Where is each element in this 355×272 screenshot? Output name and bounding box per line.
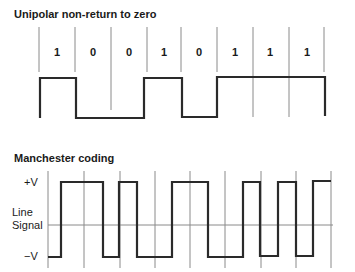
waveform-canvas: [0, 0, 355, 272]
manchester-gridlines: [48, 171, 331, 268]
nrz-waveform: [40, 77, 325, 118]
